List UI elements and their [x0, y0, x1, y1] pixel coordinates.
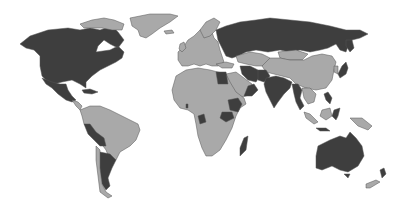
world-map — [0, 0, 405, 212]
region-australia[interactable] — [316, 132, 364, 172]
region-egypt[interactable] — [216, 72, 228, 84]
region-nz-south[interactable] — [366, 180, 380, 188]
region-arctic-islands[interactable] — [80, 18, 124, 30]
region-philippines[interactable] — [324, 92, 332, 104]
region-java[interactable] — [316, 128, 330, 131]
region-greenland[interactable] — [130, 14, 178, 38]
region-central-america[interactable] — [72, 100, 82, 110]
region-canada-usa[interactable] — [20, 26, 124, 88]
region-sulawesi[interactable] — [332, 108, 340, 120]
region-borneo[interactable] — [320, 108, 332, 120]
region-west-africa-spot[interactable] — [186, 104, 188, 108]
region-cuba[interactable] — [82, 89, 98, 94]
region-tasmania[interactable] — [344, 174, 350, 178]
region-madagascar[interactable] — [240, 136, 248, 156]
region-indochina[interactable] — [302, 88, 316, 104]
region-papua[interactable] — [350, 118, 372, 130]
region-korea[interactable] — [334, 66, 338, 74]
region-iceland[interactable] — [164, 30, 174, 34]
region-nz-north[interactable] — [380, 168, 386, 178]
region-sumatra[interactable] — [304, 112, 318, 124]
region-japan[interactable] — [338, 62, 348, 78]
region-kamchatka[interactable] — [346, 40, 354, 52]
region-india[interactable] — [264, 76, 292, 108]
